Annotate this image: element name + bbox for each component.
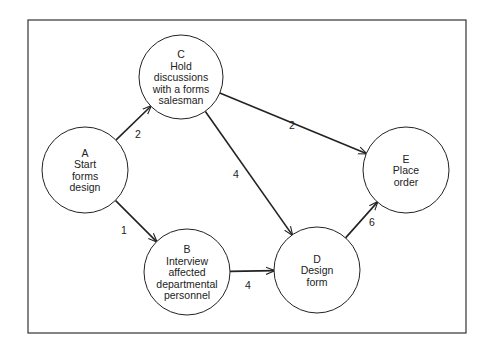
node-e: EPlaceorder	[363, 127, 449, 213]
node-description-line: with a forms	[152, 83, 210, 95]
edge-b-d: 4	[230, 271, 274, 291]
node-description-line: Hold	[170, 60, 192, 72]
edge-a-c: 2	[116, 106, 151, 140]
node-letter: A	[81, 147, 88, 159]
node-c: CHolddiscussionswith a formssalesman	[139, 35, 223, 119]
node-description-line: forms	[72, 170, 98, 182]
node-letter: B	[183, 243, 190, 255]
edge-d-e: 6	[346, 202, 378, 238]
node-description-line: salesman	[159, 94, 204, 106]
node-a: AStartformsdesign	[42, 127, 128, 213]
node-letter: C	[177, 48, 185, 60]
edge-c-e: 2	[220, 93, 366, 154]
node-description-line: Place	[393, 164, 419, 176]
edge-duration-label: 6	[369, 216, 375, 228]
node-letter: D	[313, 253, 321, 265]
edge-duration-label: 1	[121, 224, 127, 236]
arrow-line	[116, 106, 151, 140]
edge-duration-label: 2	[289, 119, 295, 131]
node-description-line: Interview	[166, 255, 208, 267]
arrow-line	[205, 111, 292, 235]
edge-c-d: 4	[205, 111, 292, 235]
node-description-line: Design	[301, 264, 334, 276]
node-description-line: personnel	[164, 289, 210, 301]
edge-duration-label: 4	[245, 279, 251, 291]
edge-a-b: 1	[115, 200, 156, 241]
nodes-group: AStartformsdesignBInterviewaffecteddepar…	[42, 35, 449, 315]
edge-duration-label: 4	[233, 168, 239, 180]
edge-duration-label: 2	[135, 128, 141, 140]
node-description-line: discussions	[154, 71, 208, 83]
node-b: BInterviewaffecteddepartmentalpersonnel	[144, 229, 230, 315]
node-description-line: design	[70, 181, 101, 193]
node-description-line: Start	[74, 158, 96, 170]
node-description-line: departmental	[156, 278, 217, 290]
pert-diagram: 212446 AStartformsdesignBInterviewaffect…	[0, 0, 490, 351]
node-description-line: form	[307, 276, 328, 288]
arrow-line	[230, 271, 274, 272]
node-d: DDesignform	[274, 227, 360, 313]
node-description-line: affected	[168, 266, 205, 278]
node-description-line: order	[394, 176, 419, 188]
node-letter: E	[402, 153, 409, 165]
